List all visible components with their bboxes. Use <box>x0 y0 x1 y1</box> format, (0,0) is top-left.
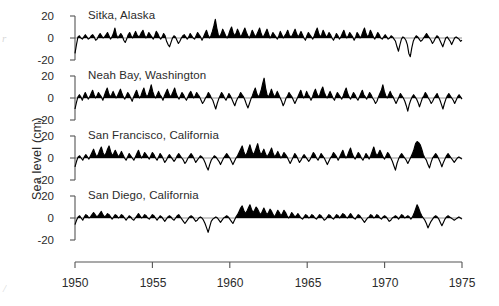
series-layer <box>75 19 462 232</box>
series-line-3 <box>75 205 462 233</box>
sea-level-figure: Sea level (cm) r / Sitka, Alaska Neah Ba… <box>0 0 499 306</box>
series-positive-fill-1 <box>75 78 462 111</box>
series-positive-fill-3 <box>75 205 462 233</box>
series-line-1 <box>75 78 462 111</box>
plot-canvas <box>0 0 499 306</box>
axes-layer <box>70 16 462 268</box>
series-positive-fill-2 <box>75 142 462 171</box>
